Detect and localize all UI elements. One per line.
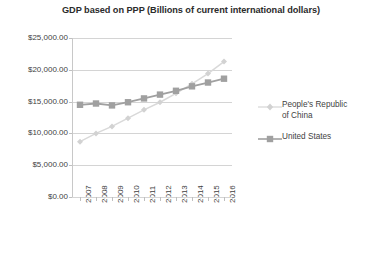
data-point-united-states: [157, 91, 163, 97]
chart-legend: People's Republic of China United States: [258, 100, 380, 156]
legend-label-china-line1: People's Republic: [282, 100, 347, 111]
data-point-china: [125, 115, 131, 121]
legend-marker-united-states: [258, 133, 282, 145]
y-axis-tick-label: $5,000.00: [6, 160, 68, 169]
x-tick-mark: [176, 197, 177, 201]
series-line-china: [80, 62, 224, 142]
y-axis-tick-label: $10,000.00: [6, 128, 68, 137]
y-axis-tick-label: $25,000.00: [6, 33, 68, 42]
data-point-united-states: [109, 102, 115, 108]
series-line-united-states: [80, 79, 224, 106]
data-point-china: [93, 130, 99, 136]
y-axis-tick-label: $0.00: [6, 192, 68, 201]
data-point-china: [141, 107, 147, 113]
chart-container: GDP based on PPP (Billions of current in…: [0, 0, 382, 253]
x-tick-mark: [160, 197, 161, 201]
data-point-united-states: [173, 88, 179, 94]
x-tick-mark: [80, 197, 81, 201]
data-point-united-states: [221, 76, 227, 82]
x-tick-mark: [128, 197, 129, 201]
x-tick-mark: [96, 197, 97, 201]
y-tick-mark: [69, 197, 72, 198]
x-tick-mark: [224, 197, 225, 201]
data-point-china: [157, 99, 163, 105]
data-point-united-states: [77, 102, 83, 108]
footer-text-sliver: [8, 249, 374, 253]
data-point-united-states: [93, 100, 99, 106]
x-tick-mark: [192, 197, 193, 201]
x-tick-mark: [112, 197, 113, 201]
series-lines: [72, 38, 232, 197]
data-point-united-states: [205, 79, 211, 85]
x-tick-mark: [144, 197, 145, 201]
legend-label-united-states: United States: [282, 132, 331, 143]
data-point-united-states: [189, 83, 195, 89]
x-tick-mark: [208, 197, 209, 201]
data-point-china: [77, 139, 83, 145]
y-axis-tick-label: $20,000.00: [6, 65, 68, 74]
data-point-china: [109, 123, 115, 129]
legend-label-china-line2: of China: [282, 111, 347, 122]
data-point-united-states: [141, 95, 147, 101]
legend-item-united-states[interactable]: United States: [258, 132, 380, 145]
data-point-united-states: [125, 99, 131, 105]
plot-area: [72, 38, 232, 197]
legend-label-china: People's Republic of China: [282, 100, 347, 121]
legend-marker-china: [258, 101, 282, 113]
chart-title: GDP based on PPP (Billions of current in…: [0, 5, 382, 15]
legend-item-china[interactable]: People's Republic of China: [258, 100, 380, 121]
legend-label-united-states-line1: United States: [282, 132, 331, 143]
y-axis-tick-label: $15,000.00: [6, 97, 68, 106]
